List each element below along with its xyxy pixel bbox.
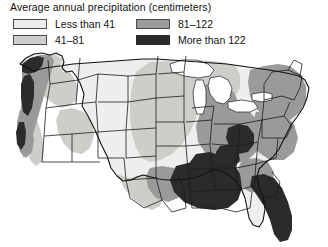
legend-label-more-than-122: More than 122 — [178, 34, 246, 46]
legend-swatch-81-122 — [136, 19, 170, 29]
united-states-map — [0, 50, 328, 247]
legend-swatch-41-81 — [13, 35, 47, 45]
legend-label-81-122: 81–122 — [178, 18, 213, 30]
legend-swatch-less-than-41 — [13, 19, 47, 29]
map-legend: Average annual precipitation (centimeter… — [0, 0, 328, 50]
legend-item-81-122: 81–122 — [136, 17, 213, 30]
legend-label-less-than-41: Less than 41 — [55, 18, 115, 30]
lake-ontario — [252, 92, 272, 102]
legend-item-more-than-122: More than 122 — [136, 33, 246, 46]
precipitation-map-figure: Average annual precipitation (centimeter… — [0, 0, 328, 247]
map-container — [0, 50, 328, 247]
legend-swatch-more-than-122 — [136, 35, 170, 45]
legend-item-less-than-41: Less than 41 — [13, 17, 115, 30]
lake-erie — [228, 100, 258, 112]
legend-title: Average annual precipitation (centimeter… — [10, 1, 211, 13]
legend-label-41-81: 41–81 — [55, 34, 84, 46]
legend-item-41-81: 41–81 — [13, 33, 84, 46]
